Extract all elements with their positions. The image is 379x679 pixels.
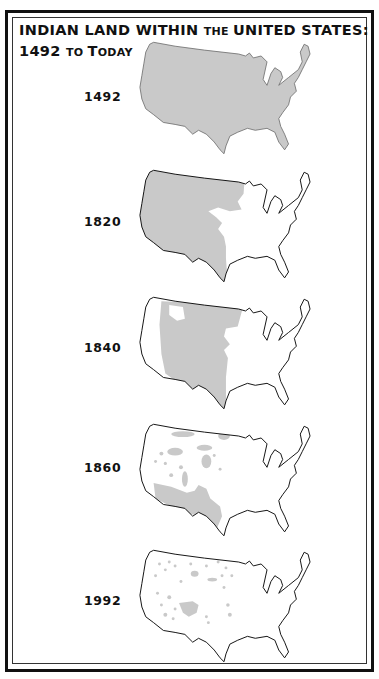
us-map-1840: [136, 295, 312, 413]
map-1492: [136, 40, 312, 158]
map-1820: [136, 168, 312, 286]
us-map-1860: [136, 422, 312, 540]
year-label-1492: 1492: [84, 89, 121, 104]
map-1840: [136, 295, 312, 413]
map-1860: [136, 422, 312, 540]
us-map-1492: [136, 40, 312, 158]
map-1992: [136, 548, 312, 666]
us-map-1992: [136, 548, 312, 666]
year-label-1860: 1860: [84, 460, 121, 475]
year-label-1820: 1820: [84, 214, 121, 229]
year-label-1992: 1992: [84, 593, 121, 608]
title-line-1: INDIAN LAND WITHIN THE UNITED STATES:: [19, 20, 369, 41]
us-map-1820: [136, 168, 312, 286]
year-label-1840: 1840: [84, 340, 121, 355]
